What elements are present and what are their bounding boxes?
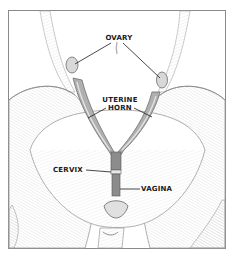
label-cervix: CERVIX: [53, 166, 87, 174]
cervix: [111, 170, 121, 174]
label-uterine-horn-line2: HORN: [100, 104, 140, 112]
anatomy-illustration: OVARY UTERINE HORN CERVIX VAGINA: [0, 0, 234, 254]
label-ovary: OVARY: [104, 34, 134, 42]
label-vagina: VAGINA: [141, 185, 175, 193]
vagina: [112, 174, 120, 196]
right-ovary: [157, 72, 168, 88]
left-ovary: [66, 57, 78, 73]
label-uterine-horn-line1: UTERINE: [100, 96, 140, 104]
uterine-body: [111, 152, 121, 170]
